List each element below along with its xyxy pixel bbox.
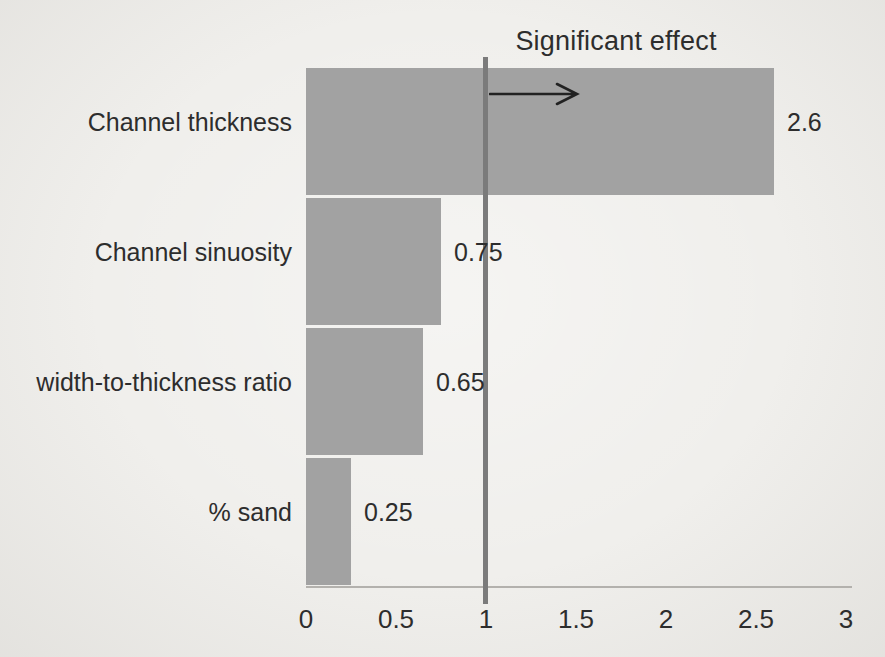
bar-channel-sinuosity	[306, 198, 441, 325]
value-label-width-to-thickness-ratio: 0.65	[436, 368, 485, 397]
x-tick-label-3: 3	[839, 604, 853, 635]
x-tick-label-0: 0	[299, 604, 313, 635]
x-axis-line	[306, 586, 852, 588]
chart-title: Significant effect	[515, 26, 716, 57]
category-label-channel-sinuosity: Channel sinuosity	[2, 238, 292, 267]
x-tick-label-0-5: 0.5	[378, 604, 414, 635]
value-label-channel-sinuosity: 0.75	[454, 238, 503, 267]
value-label-channel-thickness: 2.6	[787, 108, 822, 137]
category-label-channel-thickness: Channel thickness	[2, 108, 292, 137]
x-tick-label-1: 1	[479, 604, 493, 635]
bar-width-to-thickness-ratio	[306, 328, 423, 455]
value-label-sand: 0.25	[364, 498, 413, 527]
x-tick-label-2: 2	[659, 604, 673, 635]
chart-canvas: Significant effect Channel thicknessChan…	[0, 0, 885, 657]
x-tick-label-2-5: 2.5	[738, 604, 774, 635]
reference-line	[483, 57, 488, 604]
category-label-width-to-thickness-ratio: width-to-thickness ratio	[2, 368, 292, 397]
x-tick-label-1-5: 1.5	[558, 604, 594, 635]
significant-effect-arrow	[489, 81, 583, 107]
category-label-sand: % sand	[2, 498, 292, 527]
bar-sand	[306, 458, 351, 585]
